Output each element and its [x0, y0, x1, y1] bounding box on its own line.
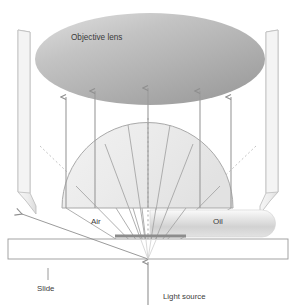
diagram-canvas: Objective lens Air Oil Slide Light sourc… [0, 0, 296, 305]
label-light-source: Light source [163, 292, 205, 301]
specimen-bar [115, 235, 186, 238]
label-objective-lens: Objective lens [71, 33, 122, 42]
label-air: Air [91, 217, 101, 226]
oil-immersion-diagram: Objective lens Air Oil Slide Light sourc… [0, 0, 296, 305]
label-slide: Slide [37, 284, 54, 293]
objective-lens-ellipse [35, 13, 265, 105]
label-oil: Oil [213, 217, 223, 226]
